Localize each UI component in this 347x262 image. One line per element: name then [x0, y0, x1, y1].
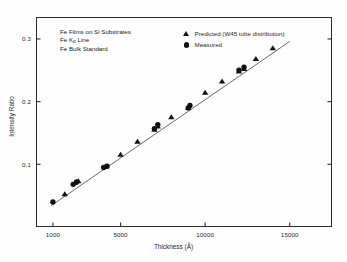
data-point-triangle	[219, 78, 225, 83]
data-point-triangle	[62, 191, 68, 196]
data-point-circle	[187, 103, 192, 108]
data-point-triangle	[117, 152, 123, 157]
plot-area	[0, 0, 347, 262]
data-point-circle	[74, 179, 79, 184]
data-point-circle	[236, 68, 241, 73]
data-point-circle	[50, 199, 55, 204]
data-point-circle	[104, 163, 109, 168]
figure-canvas: Fe Films on Si Substrates Fe Kα Line Fe …	[0, 0, 347, 262]
data-point-circle	[155, 122, 160, 127]
data-point-triangle	[134, 139, 140, 144]
series-measured	[50, 64, 247, 204]
data-point-triangle	[270, 45, 276, 50]
data-point-circle	[241, 64, 246, 69]
data-point-triangle	[168, 114, 174, 119]
data-point-triangle	[253, 56, 259, 61]
data-point-triangle	[202, 90, 208, 95]
trend-line	[51, 41, 289, 205]
